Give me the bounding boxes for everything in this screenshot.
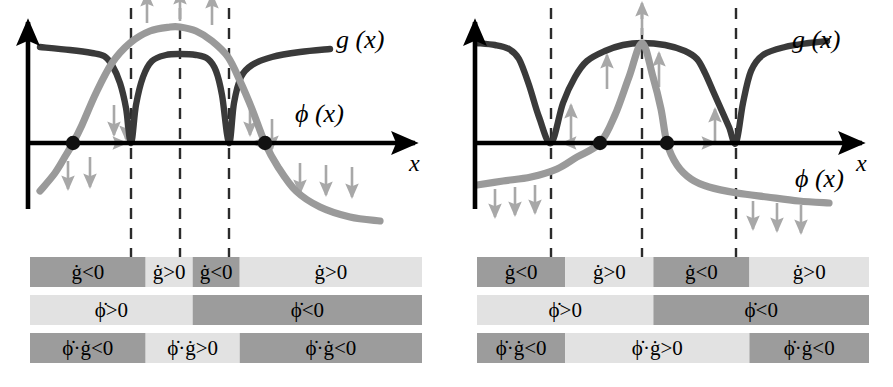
- sign-bar-label: ϕ̇·ġ<0: [784, 336, 835, 360]
- panel-right: g (x)ϕ (x)xġ<0ġ>0ġ<0ġ>0ϕ̇>0ϕ̇<0ϕ̇·ġ<0ϕ̇·…: [447, 0, 893, 387]
- fixed-point-dot: [258, 136, 272, 150]
- bar-row-product: ϕ̇·ġ<0ϕ̇·ġ>0ϕ̇·ġ<0: [477, 333, 869, 363]
- curve-label-phi: ϕ (x): [295, 99, 344, 128]
- bar-row-phidot: ϕ̇>0ϕ̇<0: [30, 295, 422, 325]
- sign-bar-label: ġ>0: [593, 260, 626, 284]
- curve-label-g: g (x): [336, 25, 384, 54]
- sign-bar-label: ϕ̇·ġ<0: [305, 336, 356, 360]
- sign-bar-label: ġ<0: [685, 260, 718, 284]
- curve-label-phi: ϕ (x): [795, 164, 844, 193]
- sign-bar-label: ϕ̇·ġ<0: [496, 336, 547, 360]
- panel-left: g (x)ϕ (x)xġ<0ġ>0ġ<0ġ>0ϕ̇>0ϕ̇<0ϕ̇·ġ<0ϕ̇·…: [0, 0, 446, 387]
- curve-phi: [477, 43, 829, 203]
- axis-label-x: x: [855, 150, 867, 176]
- sign-bar-label: ġ<0: [200, 260, 233, 284]
- sign-bar-label: ϕ̇>0: [548, 298, 581, 322]
- sign-bar-label: ϕ̇·ġ>0: [167, 336, 218, 360]
- sign-bar-label: ġ>0: [153, 260, 186, 284]
- sign-bar-label: ġ>0: [793, 260, 826, 284]
- bar-row-gdot: ġ<0ġ>0ġ<0ġ>0: [477, 257, 869, 287]
- axis-label-x: x: [408, 150, 420, 176]
- fixed-point-dot: [660, 136, 674, 150]
- curve-label-g: g (x): [792, 25, 840, 54]
- sign-bar-label: ϕ̇<0: [291, 298, 324, 322]
- fixed-point-dot: [593, 136, 607, 150]
- curve-g: [477, 41, 827, 144]
- bar-row-product: ϕ̇·ġ<0ϕ̇·ġ>0ϕ̇·ġ<0: [30, 333, 422, 363]
- sign-bar-label: ϕ̇·ġ>0: [632, 336, 683, 360]
- sign-bar-label: ġ>0: [314, 260, 347, 284]
- figure-root: g (x)ϕ (x)xġ<0ġ>0ġ<0ġ>0ϕ̇>0ϕ̇<0ϕ̇·ġ<0ϕ̇·…: [0, 0, 893, 387]
- bar-row-phidot: ϕ̇>0ϕ̇<0: [477, 295, 869, 325]
- sign-bar-label: ϕ̇>0: [95, 298, 128, 322]
- sign-bar-label: ϕ̇<0: [744, 298, 777, 322]
- bar-row-gdot: ġ<0ġ>0ġ<0ġ>0: [30, 257, 422, 287]
- sign-bar-label: ϕ̇·ġ<0: [62, 336, 113, 360]
- sign-bar-label: ġ<0: [71, 260, 104, 284]
- fixed-point-dot: [66, 136, 80, 150]
- sign-bar-label: ġ<0: [505, 260, 538, 284]
